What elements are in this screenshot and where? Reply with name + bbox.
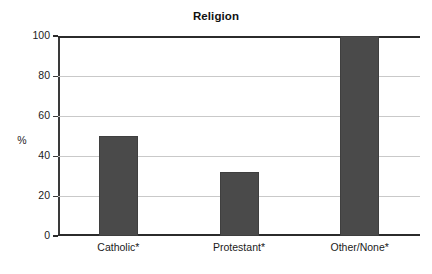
bar <box>220 172 259 236</box>
y-tick-mark <box>53 235 58 237</box>
y-axis-title: % <box>11 134 33 146</box>
chart-figure: Religion % 020406080100 Catholic*Protest… <box>0 0 432 274</box>
y-tick-label: 40 <box>8 149 50 161</box>
bar <box>340 36 379 236</box>
chart-title: Religion <box>0 10 432 22</box>
bar <box>99 136 138 236</box>
y-tick-label: 0 <box>8 229 50 241</box>
y-tick-mark <box>53 156 58 157</box>
x-tick-label: Catholic* <box>97 241 139 253</box>
x-tick-label: Other/None* <box>330 241 388 253</box>
y-tick-label: 20 <box>8 189 50 201</box>
y-tick-mark <box>53 76 58 77</box>
y-tick-mark <box>53 116 58 117</box>
y-tick-label: 80 <box>8 69 50 81</box>
plot-area <box>58 36 420 236</box>
y-axis-line <box>58 36 60 236</box>
x-tick-label: Protestant* <box>213 241 265 253</box>
y-tick-mark <box>53 196 58 197</box>
y-tick-label: 60 <box>8 109 50 121</box>
y-tick-mark <box>53 35 58 37</box>
y-tick-label: 100 <box>8 29 50 41</box>
